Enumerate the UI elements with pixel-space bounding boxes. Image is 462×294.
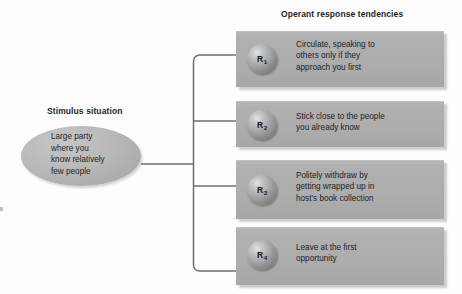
response-sphere-icon: R3 bbox=[247, 175, 277, 205]
response-line: Circulate, speaking to bbox=[296, 39, 436, 50]
response-line: opportunity bbox=[296, 253, 436, 264]
response-line: you already know bbox=[296, 122, 436, 133]
stimulus-situation-text: Large party where you know relatively fe… bbox=[51, 131, 143, 177]
stimulus-line: know relatively bbox=[51, 154, 143, 166]
response-line: Stick close to the people bbox=[296, 111, 436, 122]
response-line: host's book collection bbox=[296, 193, 436, 204]
response-line: others only if they bbox=[296, 50, 436, 61]
response-line: Politely withdraw by bbox=[296, 170, 436, 181]
stimulus-line: Large party bbox=[51, 131, 143, 143]
response-box: R2 Stick close to the people you already… bbox=[236, 101, 444, 147]
response-id: R bbox=[257, 250, 263, 260]
scan-artifact bbox=[0, 207, 3, 211]
response-id: R bbox=[257, 185, 263, 195]
stimulus-situation-title: Stimulus situation bbox=[47, 106, 122, 116]
response-text: Leave at the first opportunity bbox=[296, 242, 436, 265]
response-box: R3 Politely withdraw by getting wrapped … bbox=[236, 160, 444, 219]
response-sphere-icon: R4 bbox=[247, 240, 277, 270]
response-box: R4 Leave at the first opportunity bbox=[236, 227, 444, 285]
response-id: R bbox=[257, 120, 263, 130]
response-sphere-label: R2 bbox=[247, 110, 277, 140]
response-subscript: 1 bbox=[264, 58, 268, 65]
response-sphere-label: R4 bbox=[247, 240, 277, 270]
response-sphere-icon: R2 bbox=[247, 110, 277, 140]
response-sphere-icon: R1 bbox=[247, 44, 277, 74]
operant-response-diagram: Operant response tendencies Stimulus sit… bbox=[0, 0, 462, 294]
response-sphere-label: R3 bbox=[247, 175, 277, 205]
response-sphere-label: R1 bbox=[247, 44, 277, 74]
response-subscript: 4 bbox=[264, 254, 268, 261]
response-box: R1 Circulate, speaking to others only if… bbox=[236, 31, 444, 87]
response-line: approach you first bbox=[296, 62, 436, 73]
response-line: Leave at the first bbox=[296, 242, 436, 253]
response-subscript: 3 bbox=[264, 189, 268, 196]
response-line: getting wrapped up in bbox=[296, 181, 436, 192]
response-text: Circulate, speaking to others only if th… bbox=[296, 39, 436, 73]
operant-response-tendencies-title: Operant response tendencies bbox=[281, 9, 403, 19]
response-text: Stick close to the people you already kn… bbox=[296, 111, 436, 134]
stimulus-line: where you bbox=[51, 143, 143, 155]
stimulus-line: few people bbox=[51, 166, 143, 178]
response-subscript: 2 bbox=[264, 124, 268, 131]
response-id: R bbox=[257, 54, 263, 64]
response-text: Politely withdraw by getting wrapped up … bbox=[296, 170, 436, 204]
